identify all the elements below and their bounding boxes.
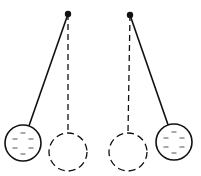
rest-ball-outline (109, 133, 147, 171)
string (29, 14, 68, 126)
rest-string (128, 15, 130, 133)
left-pendulum (5, 11, 87, 171)
charged-ball (5, 125, 41, 161)
charged-ball (156, 124, 192, 160)
string (130, 15, 168, 125)
pendulum-diagram (0, 0, 201, 176)
pivot-point (65, 11, 71, 17)
rest-ball-outline (49, 133, 87, 171)
right-pendulum (109, 12, 192, 171)
pivot-point (127, 12, 133, 18)
